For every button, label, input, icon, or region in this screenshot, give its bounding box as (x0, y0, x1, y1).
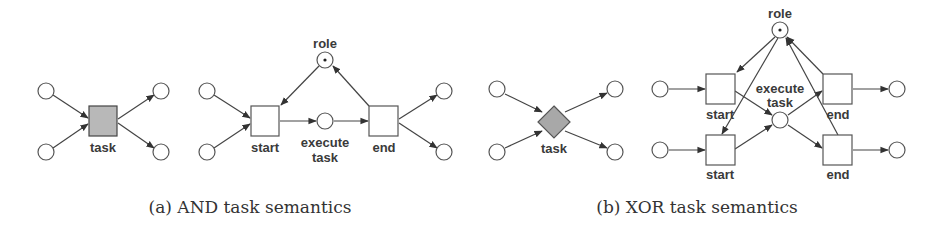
arc (281, 66, 319, 105)
arc (214, 124, 250, 148)
arc (735, 125, 772, 149)
arc (53, 124, 88, 148)
output-place-icon (153, 83, 169, 99)
end-label-top: end (826, 107, 849, 122)
end-transition-bottom-icon (823, 135, 852, 165)
input-place-icon (199, 83, 215, 99)
execute-label-line2: task (312, 150, 339, 165)
output-place-icon (889, 81, 905, 97)
start-transition-top-icon (706, 74, 735, 104)
execute-label-line2: task (767, 95, 794, 110)
input-place-icon (38, 144, 54, 160)
role-label: role (768, 6, 792, 21)
arc (118, 95, 154, 119)
role-label: role (313, 36, 337, 51)
arc (53, 95, 88, 118)
output-place-icon (607, 144, 623, 160)
petri-net-figure: task role start execute task end (a) AND… (0, 0, 941, 235)
output-place-icon (436, 83, 452, 99)
caption-b: (b) XOR task semantics (596, 197, 797, 217)
input-place-icon (38, 83, 54, 99)
xor-compact-net: task (489, 81, 623, 160)
execute-label-line1: execute (756, 81, 804, 96)
start-label-top: start (706, 107, 735, 122)
token-icon (323, 58, 326, 61)
end-label-bottom: end (826, 167, 849, 182)
output-place-icon (436, 144, 452, 160)
arc (214, 95, 250, 118)
execute-place-icon (772, 112, 788, 128)
execute-place-icon (317, 113, 333, 129)
arc (737, 37, 775, 72)
start-label-bottom: start (706, 167, 735, 182)
input-place-icon (652, 81, 668, 97)
arc (399, 123, 437, 148)
input-place-icon (489, 144, 505, 160)
output-place-icon (153, 144, 169, 160)
arc (565, 131, 607, 148)
arc (333, 66, 369, 106)
arc (787, 37, 823, 74)
end-transition-icon (369, 106, 398, 136)
arc (505, 131, 542, 148)
execute-label-line1: execute (301, 135, 349, 150)
end-label: end (372, 140, 395, 155)
input-place-icon (199, 144, 215, 160)
start-label: start (251, 140, 280, 155)
arc (788, 125, 822, 148)
end-transition-top-icon (823, 74, 852, 104)
caption-a: (a) AND task semantics (149, 197, 352, 217)
xor-expanded-net: role start start execute task end end (652, 6, 905, 182)
output-place-icon (607, 81, 623, 97)
arc (399, 95, 437, 119)
arc (118, 123, 154, 148)
task-label: task (541, 141, 568, 156)
and-compact-net: task (38, 83, 169, 160)
and-task-square-icon (89, 106, 117, 136)
start-transition-bottom-icon (706, 135, 735, 165)
task-label: task (90, 140, 117, 155)
start-transition-icon (251, 106, 279, 136)
and-expanded-net: role start execute task end (199, 36, 452, 165)
output-place-icon (889, 142, 905, 158)
xor-task-diamond-icon (538, 106, 570, 138)
input-place-icon (652, 142, 668, 158)
arc (505, 94, 542, 112)
input-place-icon (489, 81, 505, 97)
token-icon (778, 28, 781, 31)
arc (565, 93, 607, 112)
